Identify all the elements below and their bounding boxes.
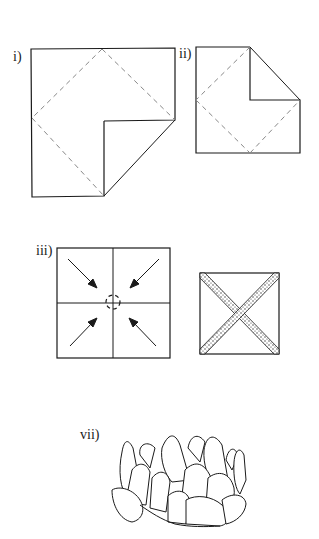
diagram-canvas xyxy=(0,0,319,539)
lotus-flower-illustration xyxy=(112,436,246,527)
step-2-diagram xyxy=(196,47,300,153)
step-1-diagram xyxy=(31,48,175,197)
step-3b-diagram xyxy=(200,273,279,354)
step-3-diagram xyxy=(57,248,170,358)
